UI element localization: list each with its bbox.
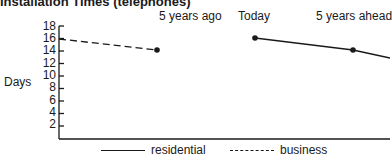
legend-residential-label: residential <box>151 143 206 157</box>
legend-residential: residential <box>101 143 206 157</box>
residential-point-today <box>252 35 258 41</box>
solid-line-swatch-icon <box>101 150 145 151</box>
business-point-5-years-ago <box>154 47 160 53</box>
legend-business-label: business <box>280 143 327 157</box>
dashed-line-swatch-icon <box>230 150 274 151</box>
residential-line <box>255 38 390 58</box>
residential-point-5-years-ahead <box>350 47 356 53</box>
legend-business: business <box>230 143 327 157</box>
business-line <box>59 39 157 50</box>
